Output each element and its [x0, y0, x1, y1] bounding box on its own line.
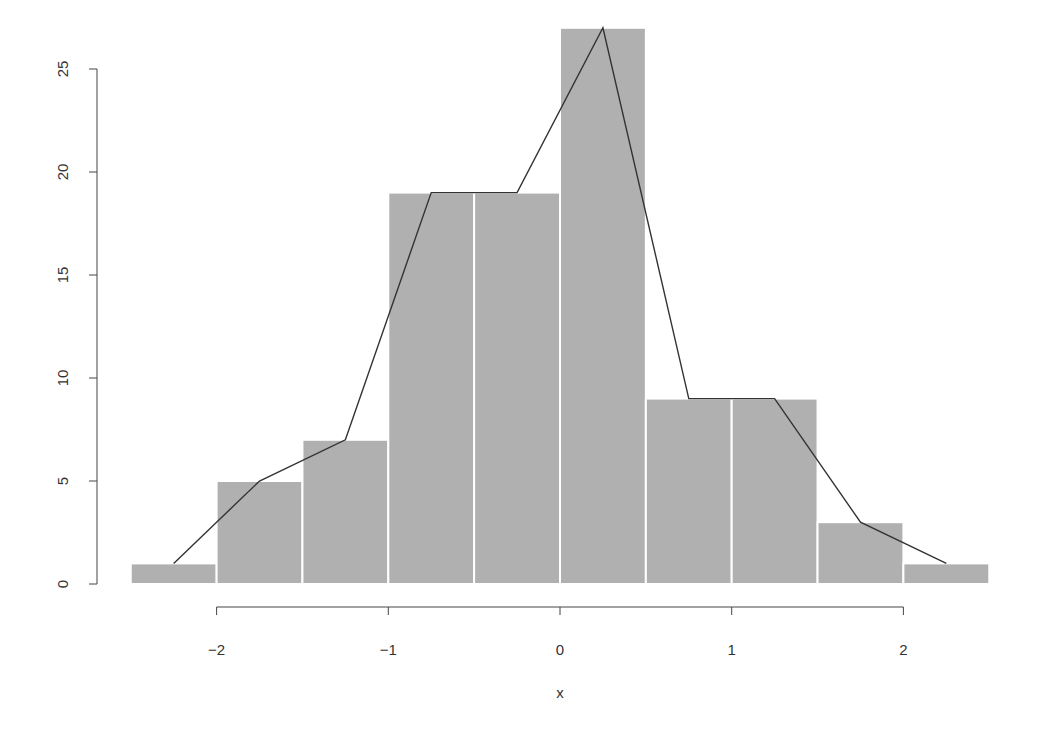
y-tick-label: 0: [54, 580, 71, 588]
y-tick-label: 20: [54, 164, 71, 181]
x-tick-label: 1: [728, 641, 736, 658]
x-tick-label: 2: [899, 641, 907, 658]
y-tick-label: 10: [54, 370, 71, 387]
y-axis: 0510152025: [54, 61, 97, 589]
histogram-bar: [732, 399, 818, 584]
histogram-bar: [474, 193, 560, 584]
x-tick-label: −1: [380, 641, 397, 658]
x-tick-label: 0: [556, 641, 564, 658]
histogram-bar: [302, 440, 388, 584]
y-tick-label: 5: [54, 477, 71, 485]
x-tick-label: −2: [208, 641, 225, 658]
histogram-bar: [818, 522, 904, 584]
histogram-bar: [903, 563, 989, 584]
x-axis-label: x: [556, 684, 564, 701]
histogram-bar: [560, 28, 646, 584]
histogram-bar: [217, 481, 303, 584]
histogram-bar: [646, 399, 732, 584]
histogram-bar: [388, 193, 474, 584]
histogram-chart: 0510152025 −2−1012 x: [0, 0, 1040, 734]
y-tick-label: 15: [54, 267, 71, 284]
y-tick-label: 25: [54, 61, 71, 78]
histogram-bar: [131, 563, 217, 584]
x-axis: −2−1012: [208, 607, 908, 658]
